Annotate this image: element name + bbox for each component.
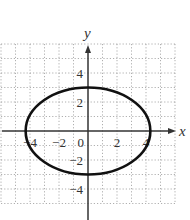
- x-tick-label: 0: [78, 135, 85, 150]
- x-tick-label: 2: [114, 135, 121, 150]
- y-tick-label: −2: [69, 153, 83, 168]
- ellipse-graph: x y −4−202442−2−4: [0, 0, 190, 220]
- y-axis-arrow-icon: [85, 45, 91, 53]
- y-tick-label: 4: [77, 66, 84, 81]
- y-axis-label: y: [82, 25, 91, 41]
- y-tick-label: −4: [69, 182, 83, 197]
- y-tick-label: 2: [77, 95, 84, 110]
- x-tick-label: −2: [52, 135, 66, 150]
- x-axis-label: x: [178, 123, 186, 139]
- x-axis-arrow-icon: [168, 128, 176, 134]
